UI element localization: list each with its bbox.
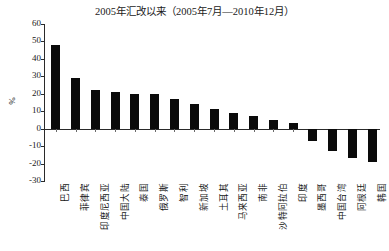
y-tick-mark	[41, 94, 45, 95]
y-tick-label: 10	[32, 105, 41, 116]
y-tick-mark	[41, 181, 45, 182]
y-tick-label: 20	[32, 88, 41, 99]
bar	[111, 92, 120, 129]
x-tick-mark	[76, 129, 77, 132]
x-axis-label: 沙特阿拉伯	[278, 183, 288, 249]
x-axis-label: 印度	[298, 183, 308, 249]
bar	[190, 104, 199, 128]
x-axis-label: 菲律宾	[80, 183, 90, 249]
x-tick-mark	[234, 129, 235, 132]
y-axis-spine	[44, 24, 45, 181]
y-tick-mark	[41, 111, 45, 112]
x-axis-label: 新加坡	[199, 183, 209, 249]
x-tick-mark	[273, 129, 274, 132]
bar	[348, 129, 357, 159]
x-axis-label: 南非	[258, 183, 268, 249]
x-axis-label: 巴西	[60, 183, 70, 249]
bar	[229, 113, 238, 129]
x-axis-label: 智利	[179, 183, 189, 249]
x-tick-mark	[115, 129, 116, 132]
x-tick-mark	[155, 129, 156, 132]
x-tick-mark	[194, 129, 195, 132]
x-axis-label: 中国台湾	[337, 183, 347, 249]
chart-figure: 2005年汇改以来（2005年7月—2010年12月） % 6050403020…	[0, 0, 389, 251]
x-axis-label: 韩国	[377, 183, 387, 249]
y-tick-label: 40	[32, 53, 41, 64]
y-tick-mark	[41, 59, 45, 60]
y-tick-label: -10	[29, 140, 41, 151]
bar	[170, 99, 179, 129]
y-tick-mark	[41, 129, 45, 130]
bar	[368, 129, 377, 162]
y-tick-mark	[41, 41, 45, 42]
x-tick-mark	[254, 129, 255, 132]
x-tick-mark	[135, 129, 136, 132]
x-tick-mark	[293, 129, 294, 132]
y-tick-label: 30	[32, 70, 41, 81]
x-tick-mark	[56, 129, 57, 132]
x-axis-labels: 巴西菲律宾印度尼西亚中国大陆泰国俄罗斯智利新加坡土耳其马来西亚南非沙特阿拉伯印度…	[44, 183, 380, 251]
bar	[308, 129, 317, 141]
x-axis-label: 俄罗斯	[159, 183, 169, 249]
y-axis-title: %	[7, 94, 17, 108]
x-axis-label: 阿根廷	[357, 183, 367, 249]
bar	[130, 94, 139, 129]
y-tick-label: -30	[29, 175, 41, 186]
y-tick-label: 50	[32, 35, 41, 46]
bar	[249, 116, 258, 128]
y-tick-mark	[41, 146, 45, 147]
x-tick-mark	[95, 129, 96, 132]
plot-area: 6050403020100-10-20-30	[44, 24, 380, 181]
x-axis-label: 中国大陆	[120, 183, 130, 249]
bar	[71, 78, 80, 129]
bar	[210, 109, 219, 128]
bar	[150, 94, 159, 129]
y-tick-label: -20	[29, 158, 41, 169]
y-tick-label: 60	[32, 18, 41, 29]
bar	[269, 120, 278, 129]
y-tick-label: 0	[37, 123, 42, 134]
x-axis-label: 土耳其	[219, 183, 229, 249]
chart-title: 2005年汇改以来（2005年7月—2010年12月）	[0, 5, 389, 18]
x-axis-label: 墨西哥	[317, 183, 327, 249]
x-axis-label: 马来西亚	[238, 183, 248, 249]
y-tick-mark	[41, 24, 45, 25]
bar	[51, 45, 60, 129]
y-tick-mark	[41, 164, 45, 165]
y-tick-mark	[41, 76, 45, 77]
bar	[289, 123, 298, 128]
bar	[91, 90, 100, 128]
bar	[328, 129, 337, 152]
x-axis-label: 印度尼西亚	[100, 183, 110, 249]
x-tick-mark	[214, 129, 215, 132]
x-axis-label: 泰国	[139, 183, 149, 249]
x-tick-mark	[174, 129, 175, 132]
